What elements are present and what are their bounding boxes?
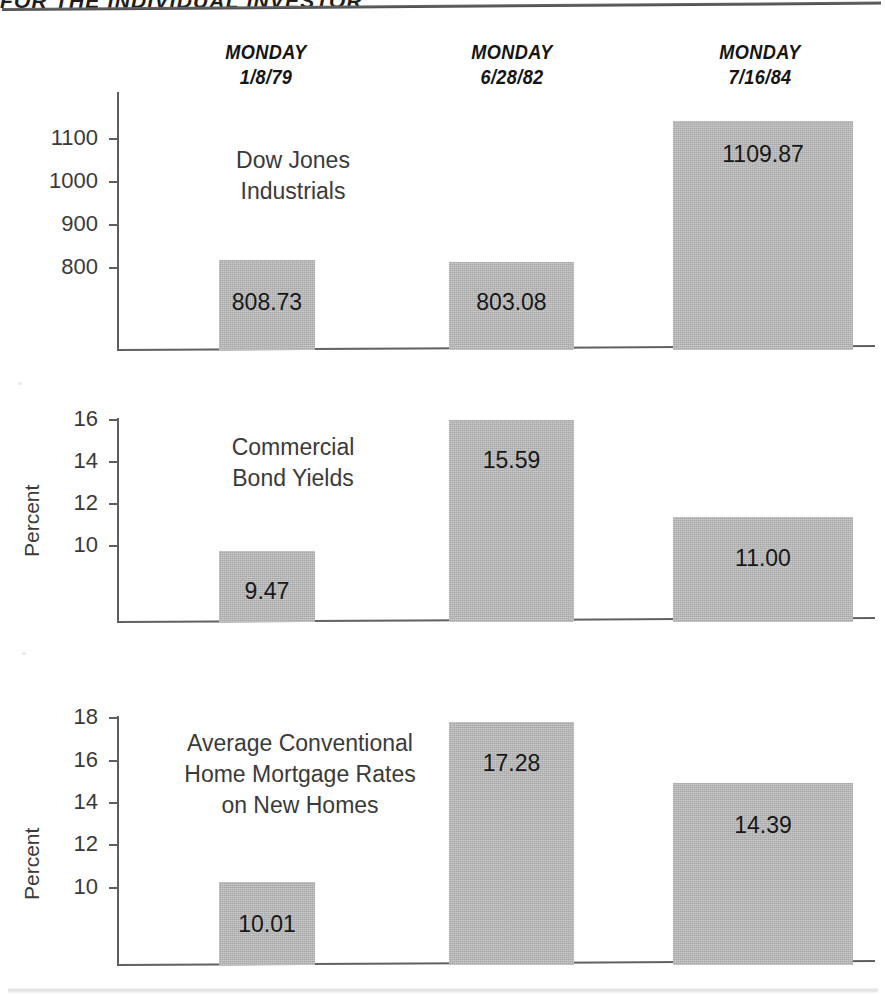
bar-value-dow-period-1: 808.73 (219, 291, 315, 314)
bar-bond-period-3: 11.00 (673, 517, 853, 622)
bar-dow-period-1: 808.73 (219, 260, 315, 350)
column-header-date: 1/8/79 (173, 65, 359, 90)
bottom-horizontal-rule (8, 988, 878, 993)
y-tick-label-bond-1: 14 (28, 450, 98, 472)
bar-dow-period-2: 803.08 (449, 262, 574, 350)
y-tick-dow-3 (109, 267, 118, 269)
y-tick-bond-3 (109, 545, 118, 547)
y-tick-dow-0 (109, 138, 118, 140)
bar-value-mortgage-period-3: 14.39 (673, 814, 853, 837)
bar-dow-period-3: 1109.87 (673, 121, 853, 350)
y-tick-mortgage-2 (109, 802, 118, 804)
y-tick-mortgage-1 (109, 760, 118, 762)
series-caption-line-2: Bond Yields (232, 465, 353, 491)
y-tick-mortgage-3 (109, 844, 118, 846)
bar-mortgage-period-2: 17.28 (449, 722, 574, 965)
plot-area-dow: 1100 1000 900 800 Dow Jones Industrials … (0, 88, 885, 356)
y-tick-mortgage-4 (109, 887, 118, 889)
series-caption-line-1: Commercial (232, 434, 355, 460)
y-axis-title-bond: Percent (20, 485, 44, 557)
series-caption-line-1: Dow Jones (236, 147, 350, 173)
y-tick-label-dow-2: 900 (28, 213, 98, 235)
y-axis-spine-mortgage (117, 716, 119, 965)
y-tick-label-mortgage-2: 14 (28, 791, 98, 813)
bar-bond-period-1: 9.47 (219, 551, 315, 622)
series-caption-mortgage: Average Conventional Home Mortgage Rates… (155, 728, 445, 821)
scan-speck (18, 382, 22, 385)
y-tick-label-dow-0: 1100 (28, 127, 98, 149)
y-axis-spine-dow (117, 92, 119, 350)
series-caption-line-2: Industrials (241, 178, 346, 204)
column-header-date: 6/28/82 (419, 65, 605, 90)
bar-mortgage-period-1: 10.01 (219, 882, 315, 965)
y-tick-dow-2 (109, 224, 118, 226)
bar-value-dow-period-2: 803.08 (449, 291, 574, 314)
column-header-period-1: MONDAY 1/8/79 (173, 40, 359, 90)
bar-value-mortgage-period-1: 10.01 (219, 913, 315, 936)
chart-sheet: FOR THE INDIVIDUAL INVESTOR MONDAY 1/8/7… (0, 0, 885, 995)
series-caption-bond: Commercial Bond Yields (170, 432, 416, 494)
y-tick-dow-1 (109, 181, 118, 183)
y-tick-mortgage-0 (109, 717, 118, 719)
column-header-period-3: MONDAY 7/16/84 (667, 40, 853, 90)
bar-value-bond-period-1: 9.47 (219, 580, 315, 603)
chart-panel-commercial-bond-yields: 16 14 12 10 Percent Commercial Bond Yiel… (0, 412, 885, 628)
series-caption-line-2: Home Mortgage Rates (184, 761, 415, 787)
series-caption-line-3: on New Homes (221, 792, 378, 818)
series-caption-line-1: Average Conventional (187, 730, 413, 756)
y-tick-label-mortgage-0: 18 (28, 706, 98, 728)
column-header-day: MONDAY (419, 40, 605, 65)
y-tick-bond-2 (109, 503, 118, 505)
y-tick-label-bond-0: 16 (28, 408, 98, 430)
chart-panel-average-conventional-home-mortgage-rates: 18 16 14 12 10 Percent Average Conventio… (0, 710, 885, 972)
bar-value-dow-period-3: 1109.87 (673, 143, 853, 166)
column-header-date: 7/16/84 (667, 65, 853, 90)
bar-value-bond-period-3: 11.00 (673, 547, 853, 570)
scan-speck (22, 652, 26, 655)
bar-value-mortgage-period-2: 17.28 (449, 752, 574, 775)
y-tick-label-mortgage-1: 16 (28, 749, 98, 771)
column-header-day: MONDAY (173, 40, 359, 65)
bar-mortgage-period-3: 14.39 (673, 783, 853, 965)
column-header-period-2: MONDAY 6/28/82 (419, 40, 605, 90)
plot-area-bond: 16 14 12 10 Percent Commercial Bond Yiel… (0, 412, 885, 628)
bar-value-bond-period-2: 15.59 (449, 449, 574, 472)
y-axis-spine-bond (117, 418, 119, 622)
y-tick-label-dow-1: 1000 (28, 170, 98, 192)
bar-bond-period-2: 15.59 (449, 420, 574, 622)
y-tick-bond-0 (109, 419, 118, 421)
column-header-day: MONDAY (667, 40, 853, 65)
y-tick-bond-1 (109, 461, 118, 463)
y-tick-label-dow-3: 800 (28, 256, 98, 278)
plot-area-mortgage: 18 16 14 12 10 Percent Average Conventio… (0, 710, 885, 972)
chart-panel-dow-jones-industrials: 1100 1000 900 800 Dow Jones Industrials … (0, 88, 885, 356)
series-caption-dow: Dow Jones Industrials (178, 145, 408, 207)
y-axis-title-mortgage: Percent (20, 828, 44, 900)
